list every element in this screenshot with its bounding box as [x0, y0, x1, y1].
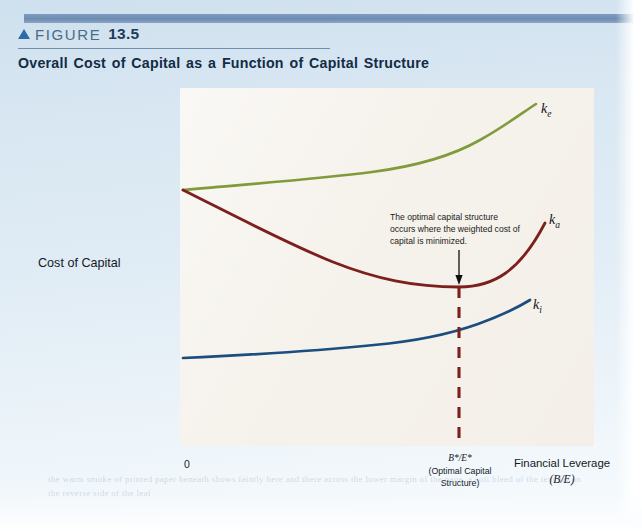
optimal-structure-annotation: The optimal capital structure occurs whe… [390, 211, 522, 248]
y-axis-label: Cost of Capital [38, 256, 121, 270]
curve-ke [183, 104, 536, 190]
curve-ki [183, 300, 530, 358]
curve-label-ki: ki [533, 297, 542, 315]
curve-label-ka: ka [549, 212, 560, 230]
paper-edge-right [616, 0, 642, 531]
curve-label-ke-sub: e [547, 109, 551, 119]
figure-page: FIGURE 13.5 Overall Cost of Capital as a… [0, 0, 642, 531]
x-axis-title-text: Financial Leverage [492, 455, 632, 472]
curve-label-ka-sub: a [555, 220, 560, 230]
annotation-arrow-head [455, 275, 462, 285]
paper-edge-bottom [0, 493, 642, 531]
origin-label: 0 [184, 458, 190, 470]
curve-label-ke: ke [541, 101, 551, 119]
curve-label-ki-sub: i [539, 305, 542, 315]
